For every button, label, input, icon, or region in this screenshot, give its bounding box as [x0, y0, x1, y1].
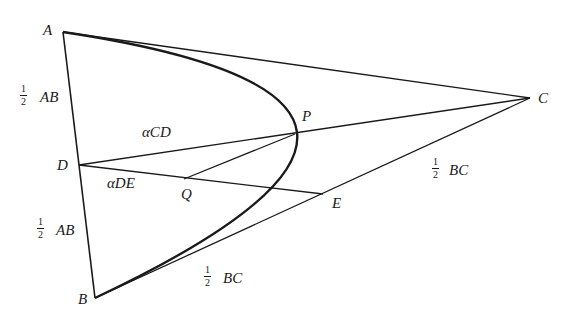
label-alpha-cd: αCD	[142, 125, 171, 140]
diagram-lines	[0, 0, 572, 317]
label-half-bc-lower: BC	[223, 271, 242, 286]
fraction-half: 1 2	[37, 217, 44, 240]
segment-ac	[63, 32, 530, 98]
fraction-half: 1 2	[204, 265, 211, 288]
label-half-bc-upper: BC	[449, 163, 468, 178]
parabola-construction-diagram: A B C D E P Q 1 2 AB 1 2 AB 1 2 BC 1 2 B…	[0, 0, 572, 317]
point-label-c: C	[538, 91, 548, 106]
fraction-half: 1 2	[432, 157, 439, 180]
point-label-p: P	[302, 109, 311, 124]
point-label-a: A	[43, 23, 52, 38]
point-label-b: B	[78, 292, 87, 307]
label-half-ab-upper: AB	[40, 90, 58, 105]
fraction-half: 1 2	[20, 84, 27, 107]
parabola-curve	[63, 32, 297, 298]
point-label-d: D	[57, 158, 68, 173]
point-label-q: Q	[181, 187, 192, 202]
point-label-e: E	[332, 196, 341, 211]
label-alpha-de: αDE	[107, 176, 135, 191]
label-half-ab-lower: AB	[56, 223, 74, 238]
